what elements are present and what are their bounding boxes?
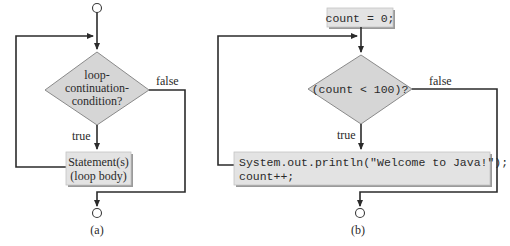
init-statement-b: count = 0; xyxy=(325,12,394,25)
false-label-a: false xyxy=(156,74,179,88)
condition-text-a-line1: loop- xyxy=(84,68,109,82)
condition-text-a-line2: continuation- xyxy=(65,81,129,95)
caption-b: (b) xyxy=(351,223,365,237)
caption-a: (a) xyxy=(90,223,103,237)
condition-text-b: (count < 100)? xyxy=(312,83,409,96)
false-label-b: false xyxy=(429,74,452,88)
body-text-b-line1: System.out.println("Welcome to Java!"); xyxy=(239,156,508,169)
flowchart-a: loop- continuation- condition? false tru… xyxy=(16,4,185,238)
true-label-b: true xyxy=(337,128,356,142)
body-text-a-line1: Statement(s) xyxy=(68,155,129,169)
end-terminal-a xyxy=(93,209,102,218)
true-label-a: true xyxy=(72,129,91,143)
end-terminal-b xyxy=(356,209,365,218)
while-loop-flowcharts: loop- continuation- condition? false tru… xyxy=(0,0,510,246)
body-text-b-line2: count++; xyxy=(239,170,294,183)
flowchart-b: count = 0; (count < 100)? false true Sys… xyxy=(218,8,508,237)
start-terminal-a xyxy=(93,4,102,13)
condition-text-a-line3: condition? xyxy=(72,94,123,108)
body-text-a-line2: (loop body) xyxy=(70,169,126,183)
